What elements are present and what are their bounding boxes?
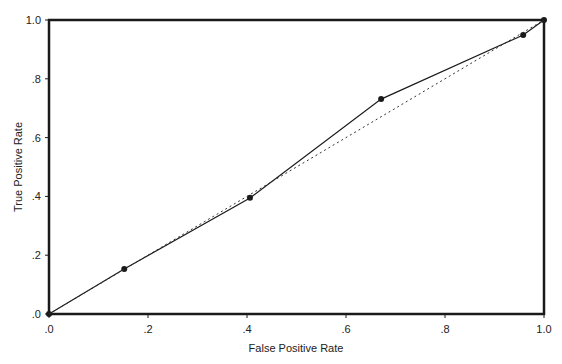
y-tick-label: 1.0 (26, 14, 41, 26)
y-axis-label: True Positive Rate (12, 122, 24, 212)
x-axis-ticks: .0.2.4.6.81.0 (44, 314, 551, 335)
x-tick-label: .4 (242, 323, 251, 335)
y-tick-label: .4 (32, 190, 41, 202)
x-tick-label: .2 (143, 323, 152, 335)
x-tick-label: .6 (341, 323, 350, 335)
y-tick-label: .2 (32, 249, 41, 261)
y-tick-label: .6 (32, 132, 41, 144)
x-tick-label: 1.0 (536, 323, 551, 335)
y-axis-ticks: .0.2.4.6.81.0 (26, 14, 49, 320)
data-point-marker (541, 17, 547, 23)
data-point-marker (378, 96, 384, 102)
plot-area (46, 17, 547, 317)
y-tick-label: .8 (32, 73, 41, 85)
reference-line (49, 20, 544, 314)
x-axis-label: False Positive Rate (249, 342, 344, 354)
y-tick-label: .0 (32, 308, 41, 320)
x-tick-label: .0 (44, 323, 53, 335)
roc-chart: .0.2.4.6.81.0 .0.2.4.6.81.0 False Positi… (0, 0, 562, 364)
data-point-marker (121, 266, 127, 272)
x-tick-label: .8 (440, 323, 449, 335)
